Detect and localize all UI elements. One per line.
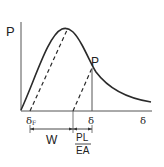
pl-label: PL <box>76 132 89 143</box>
ea-label: EA <box>76 145 90 156</box>
w-arrow-left <box>30 128 34 131</box>
w-label: W <box>46 133 58 147</box>
x-axis-label: δ <box>140 115 146 126</box>
load-curve <box>21 28 151 110</box>
pl-ea-arrow-right <box>88 128 92 131</box>
y-axis-label: P <box>6 24 15 39</box>
w-arrow-right <box>69 128 73 131</box>
pl-ea-arrow-left <box>73 128 77 131</box>
load-deflection-diagram: P P δF δ δ W PL EA <box>0 0 164 167</box>
delta-label: δ <box>88 115 94 126</box>
unloading-line-peak <box>30 28 68 111</box>
delta-f-label: δF <box>26 115 36 126</box>
unloading-line-p <box>73 68 92 111</box>
point-p-label: P <box>91 55 99 69</box>
